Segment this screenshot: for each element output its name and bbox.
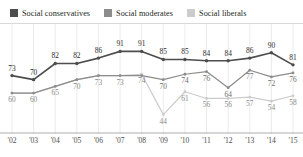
data-point[interactable] — [184, 90, 187, 93]
data-point[interactable] — [119, 74, 122, 77]
point-label: 70 — [30, 68, 38, 77]
data-point[interactable] — [205, 59, 208, 62]
point-label: 56 — [224, 100, 232, 109]
point-label: 82 — [73, 51, 81, 60]
data-point[interactable] — [226, 59, 229, 62]
point-label: 57 — [246, 99, 254, 108]
data-point[interactable] — [162, 113, 165, 116]
legend-label-liberals: Social liberals — [199, 9, 246, 18]
data-point[interactable] — [205, 97, 208, 100]
data-point[interactable] — [32, 78, 35, 81]
line-chart: Social conservatives Social moderates So… — [0, 0, 303, 157]
data-point[interactable] — [183, 58, 186, 61]
point-label: 60 — [8, 95, 16, 104]
legend-item-moderates[interactable]: Social moderates — [104, 9, 173, 18]
point-label: 73 — [95, 78, 103, 87]
point-label: 70 — [73, 82, 81, 91]
data-point[interactable] — [162, 58, 165, 61]
data-point[interactable] — [248, 56, 251, 59]
point-label: 74 — [138, 76, 146, 85]
data-point[interactable] — [291, 63, 294, 66]
data-point[interactable] — [270, 100, 273, 103]
data-point[interactable] — [54, 62, 57, 65]
x-axis: '02'03'04'05'06'07'08'09'10'11'12'13'14'… — [0, 136, 303, 150]
chart-svg: 7370828286919185858484869081707476647772… — [0, 24, 303, 134]
plot-area: 7370828286919185858484869081707476647772… — [0, 24, 303, 134]
x-tick-label: '14 — [267, 136, 276, 146]
point-label: 60 — [30, 95, 38, 104]
legend-item-liberals[interactable]: Social liberals — [187, 9, 246, 18]
data-point[interactable] — [205, 70, 208, 73]
point-label: 85 — [181, 47, 189, 56]
x-tick-label: '04 — [51, 136, 60, 146]
data-point[interactable] — [97, 56, 100, 59]
data-point[interactable] — [270, 76, 273, 79]
point-label: 76 — [203, 74, 211, 83]
x-tick-label: '03 — [29, 136, 38, 146]
x-tick-label: '10 — [180, 136, 189, 146]
x-tick-label: '15 — [289, 136, 298, 146]
point-label: 84 — [203, 49, 211, 58]
legend-label-moderates: Social moderates — [116, 9, 173, 18]
x-tick-label: '09 — [159, 136, 168, 146]
x-tick-label: '05 — [72, 136, 81, 146]
point-label: 76 — [289, 75, 297, 84]
point-label: 56 — [203, 100, 211, 109]
legend-swatch-liberals — [187, 9, 195, 17]
x-tick-label: '12 — [224, 136, 233, 146]
data-point[interactable] — [292, 94, 295, 97]
data-point[interactable] — [75, 78, 78, 81]
x-tick-label: '02 — [8, 136, 17, 146]
data-point[interactable] — [292, 72, 295, 75]
data-point[interactable] — [10, 74, 13, 77]
chart-legend: Social conservatives Social moderates So… — [0, 5, 303, 21]
point-label: 64 — [224, 90, 232, 99]
point-label: 82 — [52, 51, 60, 60]
legend-item-conservatives[interactable]: Social conservatives — [10, 9, 90, 18]
point-label: 86 — [246, 46, 254, 55]
data-point[interactable] — [11, 92, 14, 95]
x-tick-label: '06 — [94, 136, 103, 146]
point-label: 61 — [181, 94, 189, 103]
point-label: 91 — [116, 39, 124, 48]
point-label: 70 — [160, 82, 168, 91]
point-label: 58 — [289, 98, 297, 107]
data-point[interactable] — [227, 86, 230, 89]
point-label: 73 — [116, 78, 124, 87]
point-label: 91 — [138, 39, 146, 48]
x-tick-label: '07 — [116, 136, 125, 146]
data-point[interactable] — [162, 78, 165, 81]
legend-label-conservatives: Social conservatives — [22, 9, 90, 18]
point-label: 85 — [160, 47, 168, 56]
x-tick-label: '13 — [245, 136, 254, 146]
data-point[interactable] — [248, 69, 251, 72]
data-point[interactable] — [184, 73, 187, 76]
data-point[interactable] — [118, 50, 121, 53]
point-label: 65 — [52, 88, 60, 97]
point-label: 54 — [268, 103, 276, 112]
point-label: 84 — [224, 49, 232, 58]
data-point[interactable] — [270, 51, 273, 54]
point-label: 86 — [95, 46, 103, 55]
data-point[interactable] — [75, 62, 78, 65]
legend-swatch-conservatives — [10, 9, 18, 17]
legend-swatch-moderates — [104, 9, 112, 17]
data-point[interactable] — [54, 85, 57, 88]
point-label: 90 — [268, 41, 276, 50]
point-label: 74 — [181, 76, 189, 85]
data-point[interactable] — [140, 50, 143, 53]
x-tick-label: '11 — [202, 136, 211, 146]
x-tick-label: '08 — [137, 136, 146, 146]
point-label: 44 — [160, 117, 168, 126]
data-point[interactable] — [97, 74, 100, 77]
data-point[interactable] — [248, 96, 251, 99]
point-label: 73 — [8, 64, 16, 73]
point-label: 81 — [289, 53, 297, 62]
point-label: 77 — [246, 72, 254, 81]
data-point[interactable] — [32, 92, 35, 95]
point-label: 72 — [268, 79, 276, 88]
